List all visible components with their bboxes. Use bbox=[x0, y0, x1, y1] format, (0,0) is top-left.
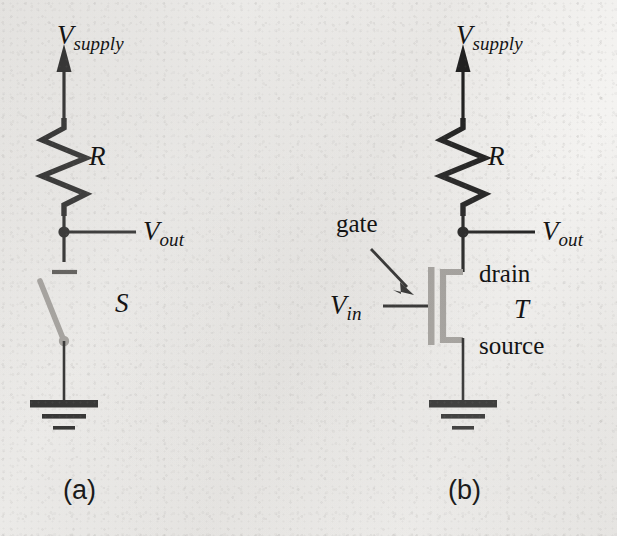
label-transistor-t: T bbox=[514, 296, 529, 323]
resistor-a bbox=[42, 118, 86, 216]
mosfet-transistor[interactable] bbox=[383, 267, 463, 345]
label-drain: drain bbox=[479, 261, 530, 286]
switch-s[interactable] bbox=[40, 272, 77, 346]
resistor-b bbox=[441, 118, 485, 216]
panel-a-circuit bbox=[30, 44, 136, 430]
ground-symbol-a bbox=[30, 400, 98, 430]
supply-arrow-b bbox=[456, 44, 471, 125]
label-gate: gate bbox=[336, 211, 378, 236]
output-node-a bbox=[58, 214, 136, 262]
caption-panel-a: (a) bbox=[63, 477, 96, 504]
label-resistor-a: R bbox=[89, 143, 106, 170]
supply-arrow-a bbox=[57, 44, 72, 125]
label-vin-b: Vin bbox=[330, 292, 361, 323]
label-switch-a: S bbox=[115, 290, 129, 317]
gate-callout-arrow bbox=[371, 249, 414, 295]
label-vout-a: Vout bbox=[143, 218, 184, 249]
label-vsupply-b: Vsupply bbox=[456, 22, 523, 53]
label-resistor-b: R bbox=[488, 143, 505, 170]
label-vsupply-a: Vsupply bbox=[57, 22, 124, 53]
panel-b-circuit bbox=[371, 44, 535, 430]
label-source: source bbox=[479, 333, 544, 358]
caption-panel-b: (b) bbox=[448, 477, 481, 504]
circuit-figure: Vsupply R Vout S (a) Vsupply R Vout gate… bbox=[0, 0, 617, 536]
ground-symbol-b bbox=[429, 400, 497, 430]
label-vout-b: Vout bbox=[542, 218, 583, 249]
